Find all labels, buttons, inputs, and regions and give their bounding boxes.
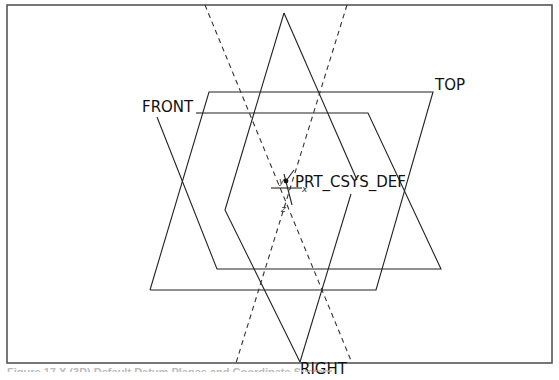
- csys-z-axis-label: z: [280, 204, 286, 214]
- front-plane[interactable]: [157, 113, 441, 269]
- datum-planes-diagram: y x z FRONT TOP RIGHT PRT_CSYS_DEF: [0, 0, 559, 380]
- right-plane[interactable]: [284, 13, 357, 180]
- front-plane-label[interactable]: FRONT: [142, 98, 194, 116]
- right-plane-lower-right[interactable]: [300, 194, 351, 362]
- top-plane-label[interactable]: TOP: [434, 76, 465, 94]
- csys-y-axis-label: y: [278, 176, 285, 186]
- top-plane[interactable]: [150, 92, 433, 290]
- csys-label[interactable]: PRT_CSYS_DEF: [295, 173, 406, 192]
